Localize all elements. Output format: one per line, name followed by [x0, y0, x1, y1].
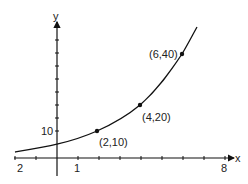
y-tick-label-10: 10 [41, 125, 53, 137]
x-tick-label-8: 8 [221, 162, 227, 174]
x-axis-label: x [235, 152, 241, 164]
point-label-4-20: (4,20) [142, 111, 171, 123]
data-point-6-40 [180, 52, 184, 56]
point-label-2-10: (2,10) [99, 136, 128, 148]
data-point-2-10 [95, 129, 99, 133]
chart-canvas: y x 2 1 8 10 (2,10) (4,20) (6,40) [0, 0, 248, 184]
data-point-4-20 [138, 103, 142, 107]
y-axis-label: y [53, 10, 59, 22]
x-tick-label-1: 1 [74, 162, 80, 174]
point-label-6-40: (6,40) [149, 48, 178, 60]
x-tick-label-neg2: 2 [17, 162, 23, 174]
